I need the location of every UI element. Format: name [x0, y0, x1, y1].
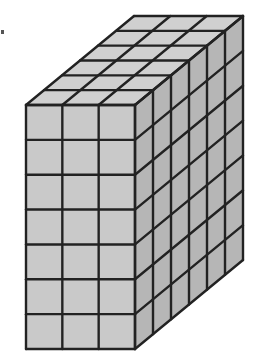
- prism-svg: [0, 0, 264, 359]
- cube-prism-diagram: [0, 0, 264, 359]
- front-face: [26, 105, 135, 349]
- stray-mark: [1, 30, 4, 34]
